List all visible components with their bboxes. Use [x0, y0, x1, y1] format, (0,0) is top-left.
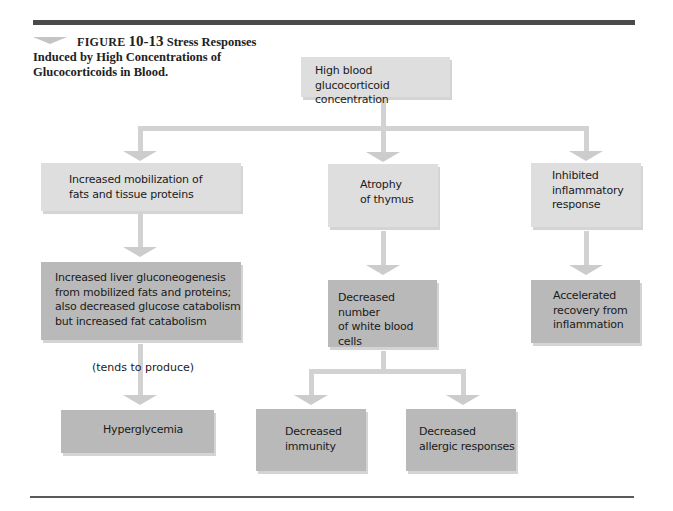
arrow-down-icon: [123, 247, 157, 257]
node-line: also decreased glucose catabolism: [55, 300, 241, 315]
node-line: Decreased: [419, 425, 516, 440]
connector-mid-drop: [381, 126, 386, 154]
connector-allergic-drop: [461, 369, 466, 396]
node-hyperglycemia: Hyperglycemia: [61, 410, 214, 453]
node-accelerated-recovery: Accelerated recovery from inflammation: [531, 280, 640, 343]
connector-right-drop: [584, 126, 589, 153]
arrow-down-icon: [569, 265, 603, 275]
node-atrophy-of-thymus: Atrophy of thymus: [328, 164, 438, 227]
node-line: of thymus: [360, 193, 438, 208]
arrow-down-icon: [446, 395, 480, 405]
node-line: Decreased number: [338, 291, 437, 320]
arrow-down-icon: [569, 151, 603, 161]
node-inhibited-inflammatory: Inhibited inflammatory response: [531, 163, 641, 227]
connector-split-bar: [309, 369, 466, 374]
node-line: Increased mobilization of: [69, 173, 241, 188]
node-line: cells: [338, 335, 437, 350]
bottom-rule: [30, 496, 634, 498]
edge-label-tends-to-produce: (tends to produce): [92, 361, 194, 374]
node-line: from mobilized fats and proteins;: [55, 286, 241, 301]
node-line: recovery from: [553, 304, 640, 319]
arrow-down-icon: [366, 152, 400, 162]
node-line: inflammation: [553, 318, 640, 333]
node-increased-mobilization: Increased mobilization of fats and tissu…: [41, 163, 241, 211]
figure-caption: FIGURE 10-13 Stress Responses Induced by…: [33, 34, 263, 80]
node-line: Atrophy: [360, 178, 438, 193]
connector-mobilization-stem: [138, 214, 143, 249]
figure-number: 10-13: [129, 33, 164, 49]
node-line: High blood glucocorticoid: [315, 64, 450, 93]
node-line: Hyperglycemia: [103, 423, 214, 438]
connector-inflammatory-stem: [584, 231, 589, 266]
node-line: Accelerated: [553, 289, 640, 304]
node-decreased-allergic-responses: Decreased allergic responses: [406, 409, 516, 471]
node-line: of white blood: [338, 320, 437, 335]
connector-left-drop: [138, 126, 143, 153]
figure-title-first: Stress: [167, 35, 199, 49]
arrow-down-icon: [123, 151, 157, 161]
connector-level1-bar: [138, 126, 589, 131]
arrow-down-icon: [294, 395, 328, 405]
caption-triangle-icon: [33, 37, 67, 44]
node-line: allergic responses: [419, 440, 516, 455]
node-increased-gluconeogenesis: Increased liver gluconeogenesis from mob…: [41, 262, 241, 340]
figure-label: FIGURE: [77, 35, 125, 49]
node-high-blood-glucocorticoid: High blood glucocorticoid concentration: [301, 57, 450, 97]
node-line: response: [552, 198, 641, 213]
top-rule: [33, 20, 635, 25]
node-line: fats and tissue proteins: [69, 188, 241, 203]
connector-immunity-drop: [309, 369, 314, 396]
node-decreased-white-blood-cells: Decreased number of white blood cells: [328, 280, 437, 347]
node-line: Increased liver gluconeogenesis: [55, 271, 241, 286]
arrow-down-icon: [366, 265, 400, 275]
node-line: inflammatory: [552, 184, 641, 199]
node-line: concentration: [315, 93, 450, 108]
node-line: Inhibited: [552, 169, 641, 184]
node-line: immunity: [285, 440, 366, 455]
arrow-down-icon: [123, 395, 157, 405]
node-decreased-immunity: Decreased immunity: [256, 409, 366, 471]
node-line: but increased fat catabolism: [55, 315, 241, 330]
connector-thymus-stem: [381, 231, 386, 266]
node-line: Decreased: [285, 425, 366, 440]
